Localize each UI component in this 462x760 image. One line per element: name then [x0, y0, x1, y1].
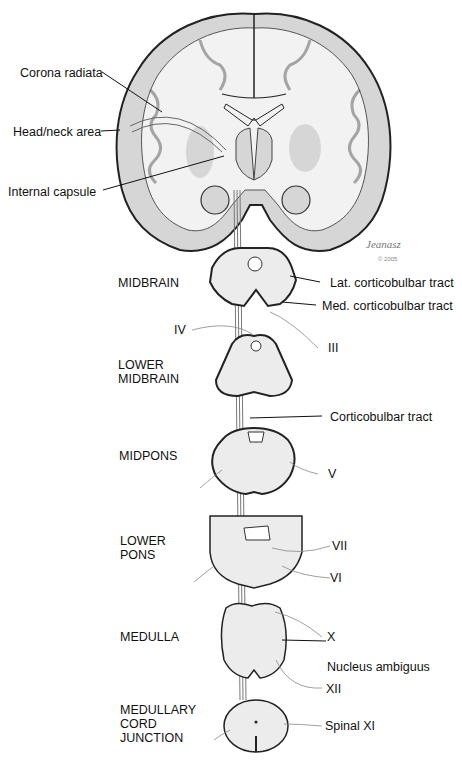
label-nerve-iii: III [328, 341, 338, 355]
label-head-neck-area: Head/neck area [13, 125, 101, 139]
label-nucleus-ambiguus: Nucleus ambiguus [327, 660, 430, 674]
lower-midbrain-section [216, 335, 292, 396]
level-label-midbrain: MIDBRAIN [118, 276, 179, 290]
level-label-lower-pons: LOWER PONS [120, 534, 166, 562]
label-med-corticobulbar-tract: Med. corticobulbar tract [322, 299, 453, 313]
label-internal-capsule: Internal capsule [8, 185, 96, 199]
lower-pons-section [210, 516, 302, 588]
copyright-text: © 2005 [378, 256, 397, 262]
midbrain-section [210, 248, 296, 306]
midpons-section [212, 428, 294, 494]
label-nerve-vi: VI [330, 571, 342, 585]
label-nerve-xii: XII [326, 682, 341, 696]
level-label-medullary-cord-junction: MEDULLARY CORD JUNCTION [120, 703, 196, 745]
label-nerve-iv: IV [174, 323, 186, 337]
label-corticobulbar-tract: Corticobulbar tract [330, 410, 432, 424]
coronal-brain-section [117, 13, 391, 250]
level-label-midpons: MIDPONS [119, 449, 177, 463]
medullary-cord-junction-section [224, 700, 288, 752]
level-label-medulla: MEDULLA [120, 630, 179, 644]
medulla-section [221, 603, 286, 678]
label-spinal-xi: Spinal XI [325, 719, 375, 733]
label-nerve-vii: VII [332, 539, 347, 553]
artist-signature: Jeanasz [366, 238, 401, 250]
label-lat-corticobulbar-tract: Lat. corticobulbar tract [330, 276, 454, 290]
label-nerve-x: X [327, 630, 335, 644]
diagram-artwork [0, 0, 462, 760]
label-nerve-v: V [328, 467, 336, 481]
label-corona-radiata: Corona radiata [20, 66, 103, 80]
level-label-lower-midbrain: LOWER MIDBRAIN [118, 358, 179, 386]
